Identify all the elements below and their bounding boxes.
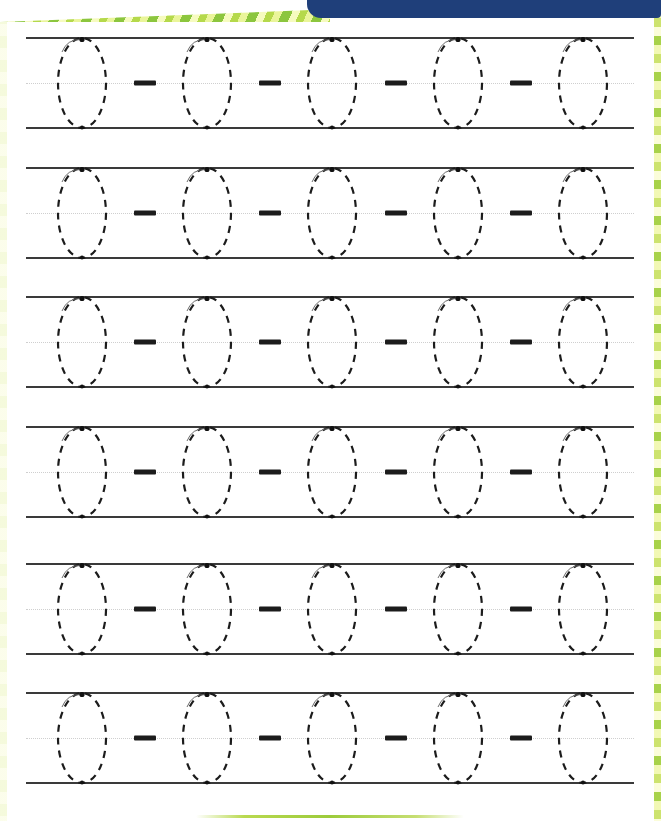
start-point-dot	[79, 692, 84, 697]
end-point-dot	[456, 514, 460, 518]
tracing-letter-o[interactable]	[53, 426, 111, 518]
end-point-dot	[80, 125, 84, 129]
letter-separator-dash	[385, 81, 407, 86]
tracing-letter-o[interactable]	[303, 426, 361, 518]
bottom-green-accent-decoration	[196, 815, 464, 818]
letter-separator-dash	[385, 607, 407, 612]
tracing-oval-outline	[183, 38, 231, 128]
start-point-dot	[79, 426, 84, 431]
tracing-letter-o[interactable]	[554, 167, 612, 259]
tracing-letter-o[interactable]	[554, 426, 612, 518]
end-point-dot	[456, 780, 460, 784]
tracing-oval-outline	[308, 297, 356, 387]
tracing-letter-o[interactable]	[429, 563, 487, 655]
tracing-letter-o[interactable]	[303, 692, 361, 784]
letter-separator-dash	[259, 470, 281, 475]
start-point-dot	[79, 37, 84, 42]
end-point-dot	[80, 651, 84, 655]
tracing-letter-o[interactable]	[554, 563, 612, 655]
tracing-letter-o[interactable]	[178, 563, 236, 655]
end-point-dot	[330, 514, 334, 518]
row-glyph-container	[26, 167, 634, 259]
tracing-letter-o[interactable]	[178, 692, 236, 784]
tracing-letter-o[interactable]	[53, 563, 111, 655]
tracing-oval-outline	[183, 564, 231, 654]
start-point-dot	[455, 167, 460, 172]
end-point-dot	[330, 651, 334, 655]
tracing-oval-outline	[434, 427, 482, 517]
end-point-dot	[456, 255, 460, 259]
tracing-letter-o[interactable]	[429, 167, 487, 259]
letter-separator-dash	[385, 211, 407, 216]
letter-separator-dash	[134, 81, 156, 86]
row-glyph-container	[26, 426, 634, 518]
row-glyph-container	[26, 692, 634, 784]
tracing-letter-o[interactable]	[303, 167, 361, 259]
tracing-oval-outline	[308, 427, 356, 517]
tracing-letter-o[interactable]	[554, 37, 612, 129]
letter-separator-dash	[134, 211, 156, 216]
tracing-letter-o[interactable]	[53, 167, 111, 259]
practice-row	[26, 296, 634, 388]
tracing-letter-o[interactable]	[429, 296, 487, 388]
start-point-dot	[580, 167, 585, 172]
start-point-dot	[204, 37, 209, 42]
tracing-oval-outline	[434, 38, 482, 128]
end-point-dot	[581, 514, 585, 518]
letter-separator-dash	[134, 607, 156, 612]
tracing-letter-o[interactable]	[303, 563, 361, 655]
start-point-dot	[455, 296, 460, 301]
letter-separator-dash	[134, 736, 156, 741]
start-point-dot	[329, 296, 334, 301]
letter-separator-dash	[385, 736, 407, 741]
tracing-letter-o[interactable]	[429, 426, 487, 518]
end-point-dot	[581, 255, 585, 259]
start-point-dot	[329, 426, 334, 431]
start-point-dot	[79, 296, 84, 301]
end-point-dot	[205, 780, 209, 784]
tracing-letter-o[interactable]	[429, 37, 487, 129]
tracing-letter-o[interactable]	[303, 296, 361, 388]
tracing-oval-outline	[308, 168, 356, 258]
start-point-dot	[580, 296, 585, 301]
end-point-dot	[456, 125, 460, 129]
start-point-dot	[329, 167, 334, 172]
end-point-dot	[80, 514, 84, 518]
tracing-oval-outline	[308, 564, 356, 654]
practice-row	[26, 426, 634, 518]
end-point-dot	[330, 255, 334, 259]
letter-separator-dash	[134, 470, 156, 475]
tracing-letter-o[interactable]	[53, 296, 111, 388]
tracing-letter-o[interactable]	[429, 692, 487, 784]
letter-separator-dash	[510, 340, 532, 345]
tracing-letter-o[interactable]	[53, 692, 111, 784]
tracing-letter-o[interactable]	[53, 37, 111, 129]
tracing-letter-o[interactable]	[178, 167, 236, 259]
start-point-dot	[204, 167, 209, 172]
end-point-dot	[205, 384, 209, 388]
letter-separator-dash	[510, 736, 532, 741]
start-point-dot	[580, 37, 585, 42]
end-point-dot	[205, 255, 209, 259]
tracing-oval-outline	[58, 427, 106, 517]
tracing-letter-o[interactable]	[303, 37, 361, 129]
practice-row	[26, 692, 634, 784]
letter-separator-dash	[134, 340, 156, 345]
end-point-dot	[80, 384, 84, 388]
letter-separator-dash	[385, 470, 407, 475]
tracing-oval-outline	[559, 693, 607, 783]
tracing-letter-o[interactable]	[178, 296, 236, 388]
tracing-letter-o[interactable]	[178, 426, 236, 518]
row-glyph-container	[26, 37, 634, 129]
tracing-oval-outline	[559, 427, 607, 517]
start-point-dot	[329, 563, 334, 568]
letter-separator-dash	[385, 340, 407, 345]
letter-separator-dash	[259, 81, 281, 86]
tracing-letter-o[interactable]	[178, 37, 236, 129]
start-point-dot	[580, 692, 585, 697]
tracing-letter-o[interactable]	[554, 692, 612, 784]
tracing-oval-outline	[559, 297, 607, 387]
start-point-dot	[329, 692, 334, 697]
end-point-dot	[581, 780, 585, 784]
tracing-letter-o[interactable]	[554, 296, 612, 388]
